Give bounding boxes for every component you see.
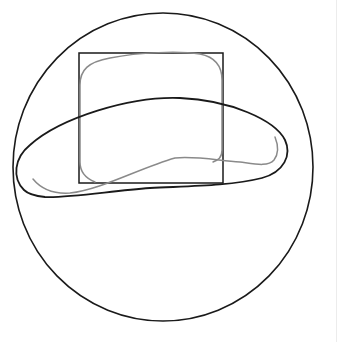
inner-rectangle-shape: [79, 53, 223, 183]
drawing-canvas: [0, 0, 349, 342]
gray-wave-stroke: [33, 137, 278, 193]
outer-circle-shape: [13, 13, 313, 321]
black-blob-outline: [16, 98, 287, 197]
gray-rounded-square-stroke: [80, 52, 222, 182]
panel-divider: [336, 0, 337, 342]
